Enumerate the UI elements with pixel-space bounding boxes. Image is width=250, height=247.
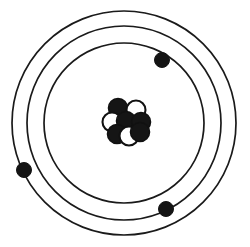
electron-top-right (155, 53, 170, 68)
electron-bottom-right (159, 202, 174, 217)
electron-left (17, 163, 32, 178)
nucleus-group (103, 99, 151, 146)
proton-lower-right (131, 123, 150, 142)
atom-svg-canvas (0, 0, 250, 247)
bohr-atom-diagram (0, 0, 250, 247)
